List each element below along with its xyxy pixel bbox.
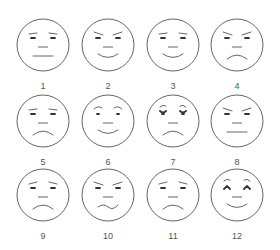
face-label: 6 [76, 157, 140, 167]
face-neutral-flat-mouth-icon [11, 17, 75, 75]
face-angry-flat-mouth-icon [205, 93, 269, 151]
face-3: 3 [141, 17, 205, 99]
face-sad-tilted-brows-icon [11, 167, 75, 225]
face-1: 1 [11, 17, 75, 99]
face-12: 12 [205, 167, 269, 249]
face-angry-frown-icon [205, 17, 269, 75]
face-angry-wavy-mouth-icon [76, 167, 140, 225]
face-6: 6 [76, 93, 140, 175]
face-label: 8 [205, 157, 269, 167]
face-8: 8 [205, 93, 269, 175]
face-7: 7 [141, 93, 205, 175]
face-label: 9 [11, 231, 75, 241]
face-10: 10 [76, 167, 140, 249]
face-label: 3 [141, 81, 205, 91]
face-label: 7 [141, 157, 205, 167]
facial-expression-scale: 1 2 3 4 5 [0, 0, 280, 250]
face-happy-arched-brows-icon [205, 167, 269, 225]
face-sad-concerned-icon [141, 167, 205, 225]
face-4: 4 [205, 17, 269, 99]
face-worried-sad-icon [141, 93, 205, 151]
face-label: 1 [11, 81, 75, 91]
face-happy-raised-brows-icon [76, 93, 140, 151]
face-label: 2 [76, 81, 140, 91]
face-sad-icon [11, 93, 75, 151]
face-9: 9 [11, 167, 75, 249]
face-label: 4 [205, 81, 269, 91]
face-label: 10 [76, 231, 140, 241]
face-label: 5 [11, 157, 75, 167]
face-label: 12 [205, 231, 269, 241]
face-2: 2 [76, 17, 140, 99]
face-label: 11 [141, 231, 205, 241]
face-slight-frown-brows-smile-icon [76, 17, 140, 75]
face-5: 5 [11, 93, 75, 175]
face-11: 11 [141, 167, 205, 249]
face-smile-icon [141, 17, 205, 75]
